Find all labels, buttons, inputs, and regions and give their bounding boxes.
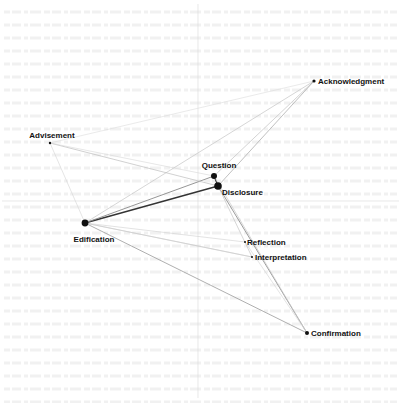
edge-edification-acknowledgment — [85, 81, 314, 223]
node-dot — [244, 241, 246, 243]
node-label: Reflection — [247, 238, 286, 247]
node-label: Edification — [74, 235, 115, 244]
network-diagram: AcknowledgmentAdvisementQuestionDisclosu… — [0, 0, 401, 403]
node-dot — [211, 173, 217, 179]
edges — [50, 81, 314, 333]
edge-edification-advisement — [50, 143, 85, 223]
node-dot — [251, 256, 253, 258]
node-dot — [214, 182, 222, 190]
node-dot — [305, 331, 309, 335]
node-dot — [82, 220, 89, 227]
axes — [2, 4, 399, 398]
node-confirmation: Confirmation — [305, 329, 361, 338]
node-interpretation: Interpretation — [251, 253, 307, 262]
edge-advisement-question — [50, 143, 214, 176]
node-dot — [312, 79, 315, 82]
node-acknowledgment: Acknowledgment — [312, 77, 384, 86]
node-disclosure: Disclosure — [214, 182, 263, 197]
node-label: Question — [202, 161, 237, 170]
node-edification: Edification — [74, 220, 115, 244]
node-label: Interpretation — [255, 253, 307, 262]
nodes: AcknowledgmentAdvisementQuestionDisclosu… — [29, 77, 384, 338]
node-label: Acknowledgment — [318, 77, 385, 86]
node-label: Confirmation — [311, 329, 361, 338]
node-reflection: Reflection — [244, 238, 286, 247]
node-dot — [49, 142, 51, 144]
node-label: Advisement — [29, 131, 75, 140]
edge-disclosure-acknowledgment — [218, 81, 314, 186]
edge-advisement-acknowledgment — [50, 81, 314, 143]
node-label: Disclosure — [222, 188, 263, 197]
node-question: Question — [202, 161, 237, 179]
edge-advisement-disclosure — [50, 143, 218, 186]
